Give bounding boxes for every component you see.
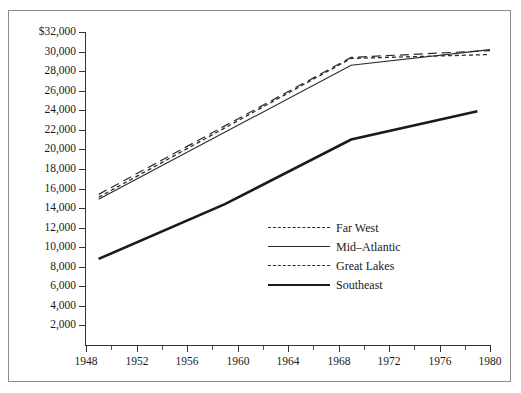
y-axis-tick-label: 26,000: [14, 85, 76, 97]
x-axis-minor-tick: [465, 346, 466, 350]
x-axis-major-tick: [389, 346, 390, 352]
y-axis-tick: [79, 130, 85, 131]
y-axis-tick: [79, 228, 85, 229]
x-axis-major-tick: [187, 346, 188, 352]
y-axis-tick: [79, 325, 85, 326]
y-axis-tick-label: 10,000: [14, 241, 76, 253]
legend-line-swatch: [268, 227, 330, 231]
y-axis-tick: [79, 149, 85, 150]
legend-line-swatch: [268, 246, 330, 250]
plot-area: [86, 32, 490, 345]
y-axis-tick: [79, 169, 85, 170]
x-axis-major-tick: [137, 346, 138, 352]
y-axis-tick-label: 22,000: [14, 124, 76, 136]
y-axis-tick-label: $32,000: [14, 26, 76, 38]
y-axis-tick-label: 2,000: [14, 319, 76, 331]
y-axis-tick: [79, 189, 85, 190]
y-axis-tick: [79, 32, 85, 33]
x-axis-major-tick: [440, 346, 441, 352]
y-axis-tick-label: 18,000: [14, 163, 76, 175]
y-axis-tick-label: 30,000: [14, 46, 76, 58]
y-axis-tick: [79, 267, 85, 268]
x-axis-minor-tick: [364, 346, 365, 350]
legend-line-swatch: [268, 284, 330, 289]
x-axis-tick-label: 1980: [460, 355, 520, 367]
legend-item: Great Lakes: [268, 257, 428, 276]
y-axis-tick: [79, 306, 85, 307]
series-line-great-lakes: [99, 55, 490, 198]
x-axis-minor-tick: [414, 346, 415, 350]
x-axis-major-tick: [490, 346, 491, 352]
y-axis-labels: $32,00030,00028,00026,00024,00022,00020,…: [12, 0, 76, 393]
y-axis-tick-label: 16,000: [14, 183, 76, 195]
legend-item-label: Far West: [336, 219, 378, 238]
series-line-mid-atlantic: [99, 50, 490, 200]
y-axis-tick: [79, 247, 85, 248]
y-axis-tick: [79, 52, 85, 53]
legend-item-label: Mid–Atlantic: [336, 238, 401, 257]
y-axis-tick: [79, 286, 85, 287]
y-axis-tick-label: 24,000: [14, 104, 76, 116]
x-axis-major-tick: [86, 346, 87, 352]
legend-item-label: Great Lakes: [336, 257, 394, 276]
x-axis-minor-tick: [111, 346, 112, 350]
legend-item: Southeast: [268, 276, 428, 295]
y-axis-tick-label: 14,000: [14, 202, 76, 214]
y-axis-tick: [79, 91, 85, 92]
chart-legend: Far WestMid–AtlanticGreat LakesSoutheast: [268, 219, 428, 295]
y-axis-tick-label: 8,000: [14, 261, 76, 273]
y-axis-tick: [79, 71, 85, 72]
legend-item-label: Southeast: [336, 276, 383, 295]
legend-item: Mid–Atlantic: [268, 238, 428, 257]
x-axis-minor-tick: [212, 346, 213, 350]
x-axis-major-tick: [288, 346, 289, 352]
x-axis-minor-tick: [162, 346, 163, 350]
legend-item: Far West: [268, 219, 428, 238]
y-axis-tick-label: 28,000: [14, 65, 76, 77]
y-axis-tick-label: 4,000: [14, 300, 76, 312]
figure-root: $32,00030,00028,00026,00024,00022,00020,…: [0, 0, 521, 393]
y-axis-tick: [79, 208, 85, 209]
y-axis-tick-label: 20,000: [14, 143, 76, 155]
x-axis-minor-tick: [263, 346, 264, 350]
legend-line-swatch: [268, 265, 330, 269]
y-axis-tick-label: 12,000: [14, 222, 76, 234]
cropped-caption-remnant: [150, 0, 490, 5]
series-lines: [86, 32, 490, 345]
x-axis-minor-tick: [313, 346, 314, 350]
x-axis-major-tick: [339, 346, 340, 352]
y-axis-tick: [79, 110, 85, 111]
y-axis-tick-label: 6,000: [14, 280, 76, 292]
x-axis-major-tick: [238, 346, 239, 352]
